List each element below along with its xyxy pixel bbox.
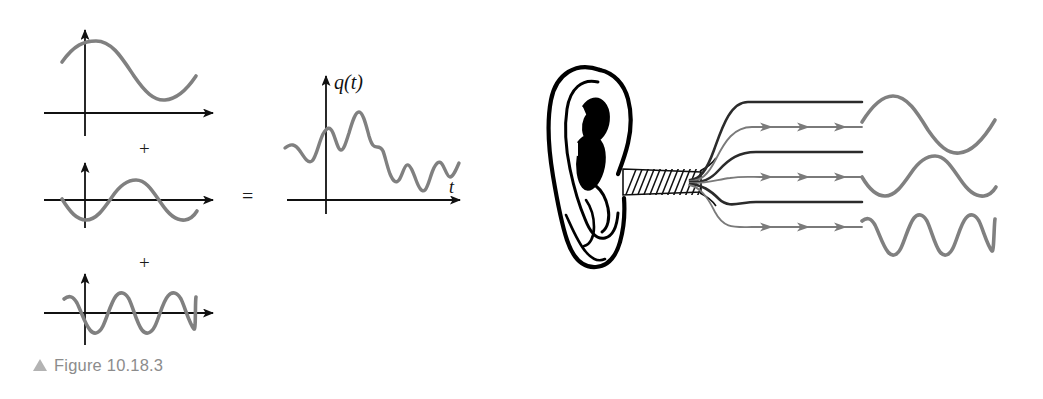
plus-operator-1: + (139, 139, 150, 158)
waveform-path-composite (285, 112, 459, 191)
flow-line-gray-3 (689, 185, 862, 227)
output-waves-group (862, 96, 996, 255)
triangle-up-icon (33, 359, 47, 371)
x-axis-label: t (449, 178, 454, 196)
equals-operator: = (242, 186, 253, 206)
component-wave-high-graph (44, 274, 213, 345)
figure-container: + + = q(t) t Figure 10.18.3 (0, 0, 1043, 399)
output-wave-high (862, 215, 995, 255)
flow-line-black-3 (690, 184, 862, 204)
plus-operator-2: + (139, 253, 150, 272)
ear-illustration (548, 67, 630, 267)
waveform-path-low (62, 41, 196, 100)
component-wave-low-graph (44, 30, 213, 136)
output-wave-mid (862, 156, 996, 196)
figure-caption-text: Figure 10.18.3 (54, 357, 163, 374)
composite-signal-graph (285, 76, 460, 214)
component-wave-mid-graph (44, 163, 213, 228)
figure-caption: Figure 10.18.3 (33, 357, 163, 374)
flow-lines-group (689, 102, 862, 232)
y-axis-label: q(t) (334, 72, 363, 92)
output-wave-low (862, 96, 995, 153)
figure-illustration (0, 0, 1043, 399)
flow-line-black-1 (690, 102, 862, 180)
